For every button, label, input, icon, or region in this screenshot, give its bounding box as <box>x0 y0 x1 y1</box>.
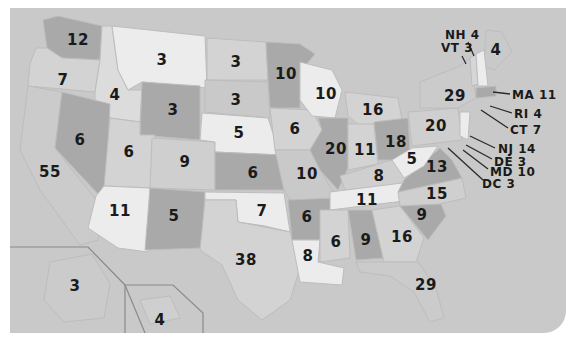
votes-nm: 5 <box>169 209 180 224</box>
votes-nv: 6 <box>75 133 86 148</box>
votes-ak: 3 <box>70 279 81 294</box>
votes-fl: 29 <box>415 278 437 293</box>
votes-in: 11 <box>354 143 376 158</box>
callout-nj: NJ 14 <box>498 143 536 155</box>
votes-ga: 16 <box>391 230 413 245</box>
callout-dc: DC 3 <box>482 178 515 190</box>
leader-ct <box>481 110 508 128</box>
votes-co: 9 <box>180 155 191 170</box>
votes-mo: 10 <box>296 167 318 182</box>
votes-hi: 4 <box>155 313 166 328</box>
votes-tn: 11 <box>356 193 378 208</box>
votes-ia: 6 <box>290 122 301 137</box>
votes-wa: 12 <box>67 33 89 48</box>
votes-me: 4 <box>491 43 502 58</box>
votes-ne: 5 <box>234 126 245 141</box>
votes-wv: 5 <box>407 152 418 167</box>
votes-sd: 3 <box>231 93 242 108</box>
callout-ri: RI 4 <box>514 108 542 120</box>
callout-ma: MA 11 <box>512 89 557 101</box>
votes-oh: 18 <box>385 135 407 150</box>
votes-ky: 8 <box>374 169 385 184</box>
votes-ar: 6 <box>302 210 313 225</box>
votes-sc: 9 <box>417 208 428 223</box>
callout-nh: NH 4 <box>445 29 480 41</box>
votes-or: 7 <box>58 73 69 88</box>
votes-az: 11 <box>109 204 131 219</box>
votes-wy: 3 <box>168 103 179 118</box>
votes-tx: 38 <box>235 253 257 268</box>
electoral-map: 12 7 55 4 6 3 3 6 11 9 5 3 3 5 6 7 38 10… <box>10 8 566 333</box>
leader-de <box>466 145 492 159</box>
callout-ct: CT 7 <box>510 124 542 136</box>
votes-ca: 55 <box>39 165 61 180</box>
votes-ny: 29 <box>444 89 466 104</box>
leader-md <box>463 150 488 169</box>
votes-ut: 6 <box>124 145 135 160</box>
votes-ms: 6 <box>331 235 342 250</box>
leader-nj <box>470 136 495 148</box>
votes-pa: 20 <box>425 119 447 134</box>
state-nj[interactable] <box>460 112 470 140</box>
votes-id: 4 <box>110 88 121 103</box>
votes-il: 20 <box>325 142 347 157</box>
votes-la: 8 <box>303 249 314 264</box>
inset-divider <box>125 285 145 333</box>
votes-mt: 3 <box>157 53 168 68</box>
votes-nc: 15 <box>426 187 448 202</box>
callout-vt: VT 3 <box>441 42 473 54</box>
votes-mi: 16 <box>362 103 384 118</box>
votes-wi: 10 <box>315 87 337 102</box>
leader-ri <box>490 106 512 113</box>
votes-va: 13 <box>426 160 448 175</box>
votes-nd: 3 <box>231 55 242 70</box>
votes-ks: 6 <box>248 166 259 181</box>
map-shapes <box>10 8 566 333</box>
votes-mn: 10 <box>275 67 297 82</box>
votes-ok: 7 <box>257 204 268 219</box>
votes-al: 9 <box>361 233 372 248</box>
